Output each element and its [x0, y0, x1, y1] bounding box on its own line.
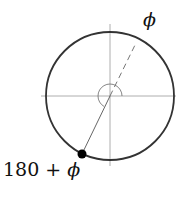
- phi-ray-dashed: [110, 43, 136, 96]
- phi-label: ϕ: [143, 8, 156, 30]
- point-label: 180 + ϕ: [3, 158, 80, 180]
- opposite-ray: [82, 96, 110, 154]
- point-label-phi: ϕ: [67, 158, 80, 180]
- point-label-number: 180 +: [3, 158, 67, 180]
